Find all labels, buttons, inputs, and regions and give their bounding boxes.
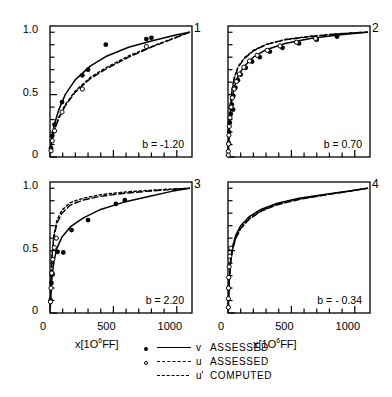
series-curve [228,188,367,309]
panel-number-3: 3 [194,178,201,190]
panel-number-1: 1 [194,22,201,34]
x-axis-label: x[1O6FF] [75,337,119,350]
plot-area-3: b = 2.20 [43,180,194,320]
legend-line-solid [157,343,191,353]
data-point-filled [52,122,57,127]
data-point-filled [122,198,127,203]
plot-area-1: b = -1.20 [43,24,194,164]
data-point-open [232,87,236,91]
data-point-open [51,257,55,261]
data-point-open [50,139,54,143]
y-tick-label: 1.0 [8,24,38,35]
data-point-open [52,129,56,133]
series-curve [228,32,367,154]
data-point-open [50,271,54,275]
legend-item: u'COMPUTED [140,369,272,383]
data-point-open [265,48,269,52]
data-point-open [226,286,230,290]
x-tick-label: 1000 [150,321,190,332]
data-point-filled [55,249,60,254]
data-point-open [48,300,52,304]
panel-annotation: b = 0.70 [324,138,362,150]
data-point-filled [80,73,85,78]
data-point-open [278,44,282,48]
data-point-open [226,153,230,157]
data-point-open [228,116,232,120]
series-curve [228,188,367,309]
legend-label: ASSESSED [210,343,269,353]
data-point-open [242,65,246,69]
data-point-open [80,87,84,91]
data-point-open [228,254,232,258]
data-point-open [60,110,64,114]
data-point-open [226,297,230,301]
legend-item: uASSESSED [140,355,272,369]
plot-area-2: b = 0.70 [221,24,372,164]
plot-area-4: b = - 0.34 [221,180,372,320]
data-point-open [247,59,251,63]
data-point-open [52,245,56,249]
y-tick-label: 0 [8,305,38,316]
y-tick-label: 0 [8,149,38,160]
chart-panel-2: b = 0.70 [221,24,372,164]
legend-line-dotted [157,371,191,381]
panel-annotation: b = -1.20 [142,138,184,150]
series-curve [51,32,190,149]
data-point-filled [103,42,108,47]
legend-symbol: u [196,357,210,367]
x-tick-label: 500 [264,321,304,332]
data-point-filled [114,201,119,206]
series-curve [50,188,189,303]
legend: vASSESSEDuASSESSEDu'COMPUTED [140,341,272,383]
data-point-filled [149,35,154,40]
panel-annotation: b = 2.20 [146,294,184,306]
chart-panel-3: b = 2.20 [43,180,194,320]
series-curve [228,188,367,309]
y-tick-label: 1.0 [8,180,38,191]
chart-panel-4: b = - 0.34 [221,180,372,320]
data-point-open [229,246,233,250]
data-point-open [230,96,234,100]
legend-line-dashed [157,357,191,367]
data-point-filled [50,133,55,138]
data-point-open [227,124,231,128]
data-point-open [234,79,238,83]
data-point-open [54,236,58,240]
legend-filled-circle-icon [140,344,152,353]
data-point-open [49,149,53,153]
data-point-open [294,40,298,44]
x-tick-label: 0 [23,321,63,332]
legend-symbol: v [196,343,210,353]
x-tick-label: 0 [201,321,241,332]
data-point-filled [60,100,65,105]
data-point-open [229,105,233,109]
data-point-filled [86,218,91,223]
panel-number-4: 4 [372,178,379,190]
data-point-open [49,286,53,290]
chart-panel-1: b = -1.20 [43,24,194,164]
data-point-filled [335,34,340,39]
legend-item: vASSESSED [140,341,272,355]
data-point-filled [49,281,54,286]
data-point-open [227,133,231,137]
data-point-open [237,72,241,76]
data-point-open [227,275,231,279]
data-point-open [226,305,230,309]
x-tick-label: 500 [86,321,126,332]
panel-annotation: b = - 0.34 [317,294,362,306]
data-point-open [144,44,148,48]
data-point-filled [61,250,66,255]
series-curve [228,32,367,154]
panel-number-2: 2 [372,22,379,34]
data-point-filled [144,37,149,42]
x-tick-label: 1000 [328,321,368,332]
series-curve [228,32,367,154]
data-point-filled [86,67,91,72]
data-point-filled [69,228,74,233]
legend-label: COMPUTED [210,371,272,381]
data-point-open [227,265,231,269]
legend-label: ASSESSED [210,357,269,367]
figure-root: b = -1.20100.51.0b = 0.702b = 2.20300.51… [0,0,392,397]
y-tick-label: 0.5 [8,87,38,98]
data-point-open [313,36,317,40]
